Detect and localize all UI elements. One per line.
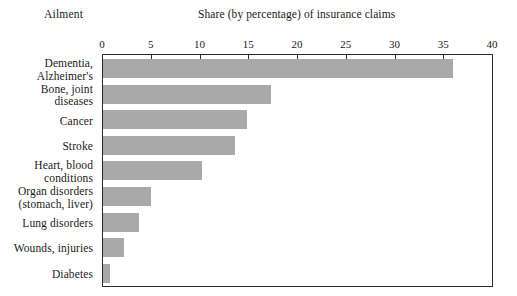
bar: [103, 136, 235, 155]
category-axis-header: Ailment: [44, 8, 83, 20]
category-label-line: Lung disorders: [22, 217, 93, 230]
bar: [103, 110, 247, 129]
bar: [103, 59, 453, 78]
category-label-line: Alzheimer's: [37, 70, 93, 83]
category-label-line: Dementia,: [37, 57, 93, 70]
axis-tick-label: 15: [243, 38, 254, 50]
category-label-line: (stomach, liver): [18, 198, 93, 211]
category-label: Lung disorders: [22, 217, 93, 230]
bar-row: Bone, jointdiseases: [0, 82, 517, 108]
bar: [103, 213, 139, 232]
category-label: Cancer: [60, 115, 93, 128]
category-label: Stroke: [62, 140, 93, 153]
bar-row: Organ disorders(stomach, liver): [0, 184, 517, 210]
category-label-line: diseases: [41, 95, 93, 108]
category-label-line: Wounds, injuries: [14, 242, 93, 255]
axis-tick-label: 0: [99, 38, 105, 50]
category-label: Wounds, injuries: [14, 242, 93, 255]
category-label: Organ disorders(stomach, liver): [18, 185, 93, 210]
chart-title: Share (by percentage) of insurance claim…: [198, 8, 395, 20]
bar-rows: Dementia,Alzheimer'sBone, jointdiseasesC…: [0, 56, 517, 286]
bar-row: Wounds, injuries: [0, 235, 517, 261]
category-label-line: Bone, joint: [41, 83, 93, 96]
value-axis: 0510152025303540: [102, 54, 492, 55]
axis-tick-label: 40: [487, 38, 498, 50]
bar: [103, 187, 151, 206]
category-label: Heart, bloodconditions: [34, 159, 93, 184]
axis-tick-label: 25: [340, 38, 351, 50]
plot-frame-bottom: [102, 286, 493, 287]
bar-chart: Ailment Share (by percentage) of insuran…: [0, 0, 517, 296]
axis-tick-label: 5: [148, 38, 154, 50]
bar-row: Diabetes: [0, 260, 517, 286]
category-label-line: Organ disorders: [18, 185, 93, 198]
bar-row: Cancer: [0, 107, 517, 133]
category-label-line: conditions: [34, 172, 93, 185]
bar: [103, 85, 271, 104]
bar: [103, 264, 110, 283]
category-label-line: Cancer: [60, 115, 93, 128]
axis-tick-label: 35: [438, 38, 449, 50]
category-label-line: Heart, blood: [34, 159, 93, 172]
category-label: Dementia,Alzheimer's: [37, 57, 93, 82]
axis-tick-label: 20: [292, 38, 303, 50]
axis-tick-label: 30: [389, 38, 400, 50]
bar: [103, 161, 202, 180]
category-label-line: Diabetes: [52, 268, 93, 281]
category-label-line: Stroke: [62, 140, 93, 153]
axis-tick-label: 10: [194, 38, 205, 50]
bar-row: Dementia,Alzheimer's: [0, 56, 517, 82]
bar-row: Heart, bloodconditions: [0, 158, 517, 184]
bar-row: Lung disorders: [0, 209, 517, 235]
bar-row: Stroke: [0, 133, 517, 159]
category-label: Diabetes: [52, 268, 93, 281]
category-label: Bone, jointdiseases: [41, 83, 93, 108]
bar: [103, 238, 124, 257]
